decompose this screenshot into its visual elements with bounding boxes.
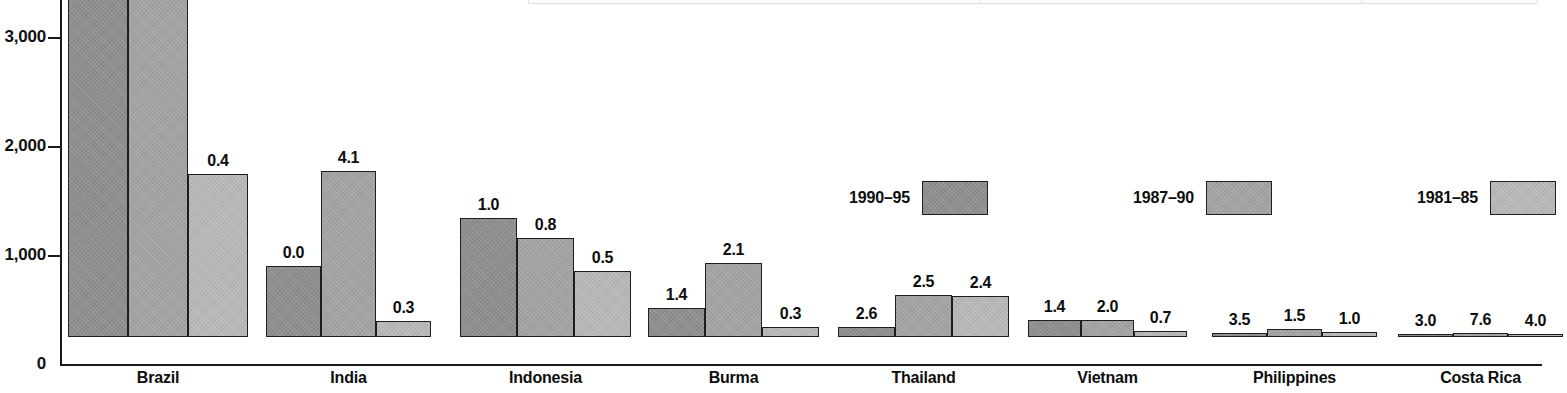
legend-swatch-texture <box>1207 182 1271 214</box>
legend-swatch <box>1206 181 1272 215</box>
legend-swatch <box>922 181 988 215</box>
legend-swatch <box>1490 181 1556 215</box>
legend-label: 1990–95 <box>849 189 910 207</box>
legend-label: 1987–90 <box>1133 189 1194 207</box>
legend-swatch-texture <box>923 182 987 214</box>
legend-swatch-texture <box>1491 182 1555 214</box>
legend-label: 1981–85 <box>1417 189 1478 207</box>
